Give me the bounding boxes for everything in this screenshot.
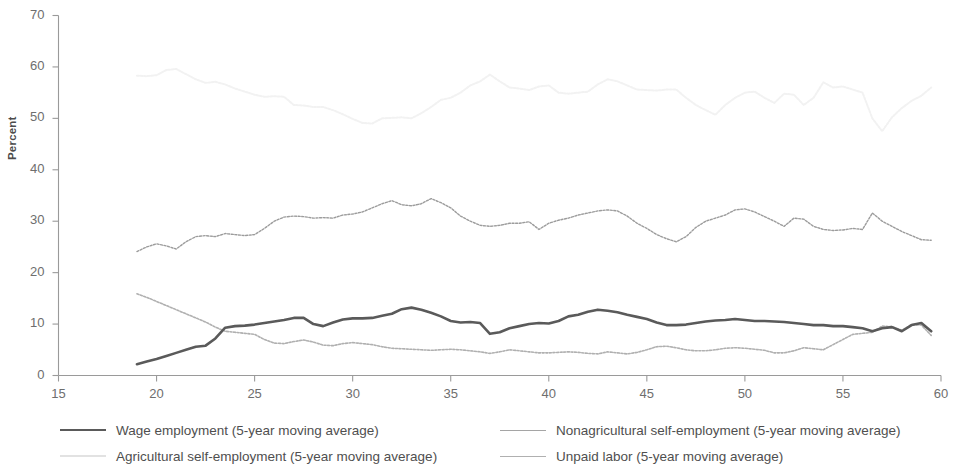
legend-row: Agricultural self-employment (5-year mov… [48, 443, 958, 469]
y-axis-tick-label: 50 [11, 109, 45, 124]
line-chart: Percent 01020304050607015202530354045505… [0, 0, 964, 470]
legend-swatch-agricultural-self-employment [60, 455, 106, 457]
legend-item-nonagricultural-self-employment[interactable]: Nonagricultural self-employment (5-year … [500, 417, 900, 443]
y-axis-tick-label: 0 [11, 367, 45, 382]
series-line [137, 199, 931, 252]
y-axis-tick-label: 40 [11, 161, 45, 176]
legend-swatch-nonagricultural-self-employment [500, 430, 546, 431]
legend-label-wage-employment: Wage employment (5-year moving average) [116, 423, 379, 438]
chart-legend: Wage employment (5-year moving average) … [48, 417, 958, 469]
x-axis-tick-label: 20 [137, 386, 177, 401]
x-axis-tick-label: 35 [431, 386, 471, 401]
y-axis-tick-label: 30 [11, 212, 45, 227]
legend-label-unpaid-labor: Unpaid labor (5-year moving average) [556, 449, 783, 464]
x-axis-tick-label: 15 [39, 386, 79, 401]
legend-row: Wage employment (5-year moving average) … [48, 417, 958, 443]
legend-item-agricultural-self-employment[interactable]: Agricultural self-employment (5-year mov… [60, 443, 437, 469]
x-axis-tick-label: 30 [333, 386, 373, 401]
series-line [137, 69, 931, 131]
y-axis-tick-label: 60 [11, 58, 45, 73]
x-axis-tick-label: 25 [235, 386, 275, 401]
x-axis-tick-label: 45 [627, 386, 667, 401]
legend-swatch-wage-employment [60, 429, 106, 431]
x-axis-tick-label: 50 [725, 386, 765, 401]
legend-label-nonagricultural-self-employment: Nonagricultural self-employment (5-year … [556, 423, 900, 438]
legend-item-wage-employment[interactable]: Wage employment (5-year moving average) [60, 417, 379, 443]
axes [53, 16, 942, 382]
y-axis-tick-label: 70 [11, 7, 45, 22]
y-axis-tick-label: 10 [11, 315, 45, 330]
data-series-group [137, 69, 931, 364]
legend-label-agricultural-self-employment: Agricultural self-employment (5-year mov… [116, 449, 437, 464]
y-axis-tick-label: 20 [11, 264, 45, 279]
legend-swatch-unpaid-labor [500, 456, 546, 457]
x-axis-tick-label: 40 [529, 386, 569, 401]
x-axis-tick-label: 60 [921, 386, 961, 401]
legend-item-unpaid-labor[interactable]: Unpaid labor (5-year moving average) [500, 443, 783, 469]
x-axis-tick-label: 55 [823, 386, 863, 401]
